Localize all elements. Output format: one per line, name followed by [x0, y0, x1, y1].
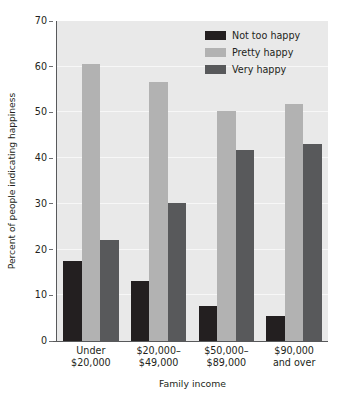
x-axis-line [53, 341, 328, 342]
legend-swatch-icon [205, 48, 226, 57]
x-axis-tick-label: Under$20,000 [57, 345, 125, 370]
bar [266, 316, 285, 341]
legend-label: Pretty happy [232, 47, 293, 58]
y-axis-tick-mark [49, 249, 53, 250]
y-axis-tick-label: 40 [35, 153, 47, 163]
y-axis-tick-mark [49, 66, 53, 67]
x-axis-tick-label: $20,000–$49,000 [125, 345, 193, 370]
legend-swatch-icon [205, 65, 226, 74]
bar [63, 261, 82, 341]
x-axis-tick-label: $50,000–$89,000 [193, 345, 261, 370]
bar [149, 82, 168, 341]
bar [168, 203, 187, 341]
y-axis-tick-label: 10 [35, 290, 47, 300]
y-axis-tick-mark [49, 203, 53, 204]
y-axis-tick-mark [49, 21, 53, 22]
y-axis-tick-label: 60 [35, 62, 47, 72]
y-axis-tick-mark [49, 158, 53, 159]
bar [131, 281, 150, 341]
y-axis-tick-labels: 010203040506070 [20, 0, 53, 402]
bar [217, 111, 236, 341]
y-axis-tick-label: 0 [41, 336, 47, 346]
x-axis-tick-label: $90,000and over [260, 345, 328, 370]
y-axis-tick-label: 30 [35, 199, 47, 209]
legend-swatch-icon [205, 31, 226, 40]
bar [100, 240, 119, 341]
bar [285, 104, 304, 341]
legend-item: Pretty happy [205, 44, 330, 60]
bar-chart-figure: Percent of people indicating happiness 0… [0, 0, 338, 402]
y-axis-title: Percent of people indicating happiness [4, 21, 20, 341]
y-axis-line [56, 21, 57, 342]
y-axis-tick-label: 50 [35, 107, 47, 117]
legend-label: Very happy [232, 64, 286, 75]
bar [82, 64, 101, 341]
bar [199, 306, 218, 341]
y-axis-tick-mark [49, 112, 53, 113]
x-axis-title: Family income [57, 378, 328, 389]
y-axis-tick-label: 20 [35, 245, 47, 255]
y-axis-tick-label: 70 [35, 16, 47, 26]
bar [236, 150, 255, 341]
bar [303, 144, 322, 341]
x-axis-tick-labels: Under$20,000$20,000–$49,000$50,000–$89,0… [57, 345, 328, 379]
legend: Not too happyPretty happyVery happy [205, 27, 330, 78]
legend-label: Not too happy [232, 30, 300, 41]
legend-item: Very happy [205, 61, 330, 77]
y-axis-tick-mark [49, 295, 53, 296]
legend-item: Not too happy [205, 27, 330, 43]
